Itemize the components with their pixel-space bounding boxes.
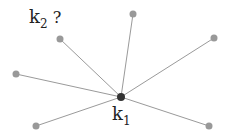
k1-label: k1	[112, 103, 131, 128]
node	[206, 123, 213, 130]
edge	[121, 97, 209, 126]
node	[211, 35, 218, 42]
edge	[60, 39, 121, 97]
k2-query-label: k2 ?	[29, 6, 61, 31]
node	[57, 36, 64, 43]
star-graph: k2 ? k1	[0, 0, 227, 136]
node	[33, 123, 40, 130]
node	[130, 11, 137, 18]
center-node-k1	[117, 93, 125, 101]
edge	[121, 14, 133, 97]
edge	[36, 97, 121, 126]
edge	[16, 74, 121, 97]
edge	[121, 38, 214, 97]
node	[13, 71, 20, 78]
